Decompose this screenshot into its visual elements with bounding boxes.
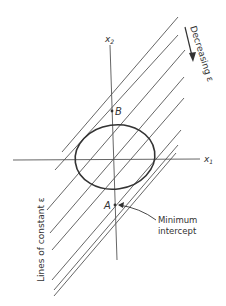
epsilon-line-2 [55, 35, 178, 170]
minimum-intercept-label-line1: Minimum [158, 215, 197, 225]
point-a-label: A [103, 200, 111, 211]
epsilon-line-3 [47, 50, 185, 210]
diagram-canvas: x1 x2 B A Minimum intercept Decreasing ε… [0, 0, 226, 306]
lines-constant-epsilon-label: Lines of constant ε [36, 197, 46, 282]
x2-axis-label: x2 [104, 34, 114, 45]
x1-axis-label: x1 [203, 154, 213, 165]
minimum-intercept-label-line2: intercept [158, 226, 197, 236]
point-a-marker [114, 204, 117, 207]
constant-epsilon-lines [47, 17, 185, 296]
x1-axis [13, 159, 200, 160]
point-b-marker [111, 110, 114, 113]
epsilon-line-4 [50, 77, 184, 233]
minimum-intercept-arrow [118, 202, 156, 220]
point-b-label: B [115, 106, 122, 117]
epsilon-line-1 [62, 17, 178, 152]
x2-axis [110, 45, 117, 260]
